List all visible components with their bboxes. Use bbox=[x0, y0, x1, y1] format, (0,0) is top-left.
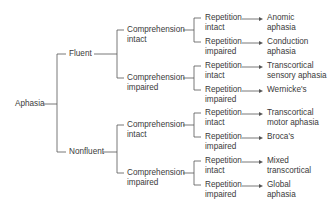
comprehension-node: Comprehension impaired bbox=[127, 73, 185, 93]
outcome-conduction: Conduction aphasia bbox=[267, 37, 308, 57]
root-node: Aphasia bbox=[15, 99, 45, 109]
fluent-node: Fluent bbox=[69, 49, 92, 59]
outcome-global: Global aphasia bbox=[267, 180, 296, 200]
repetition-node: Repetition impaired bbox=[205, 85, 242, 105]
outcome-transcortical-sensory: Transcortical sensory aphasia bbox=[267, 61, 327, 81]
repetition-node: Repetition impaired bbox=[205, 132, 242, 152]
comprehension-node: Comprehension impaired bbox=[127, 168, 185, 188]
comprehension-node: Comprehension intact bbox=[127, 25, 185, 45]
arrow-icon bbox=[259, 41, 263, 45]
arrow-icon bbox=[259, 65, 263, 69]
nonfluent-node: Nonfluent bbox=[69, 147, 104, 157]
arrow-icon bbox=[259, 184, 263, 188]
repetition-node: Repetition intact bbox=[205, 156, 242, 176]
outcome-mixed-transcortical: Mixed transcortical bbox=[267, 156, 311, 176]
arrow-icon bbox=[259, 136, 263, 140]
comprehension-node: Comprehension intact bbox=[127, 120, 185, 140]
outcome-wernickes: Wernicke's bbox=[267, 85, 307, 95]
repetition-node: Repetition intact bbox=[205, 108, 242, 128]
arrow-icon bbox=[259, 112, 263, 116]
repetition-node: Repetition intact bbox=[205, 61, 242, 81]
arrow-icon bbox=[259, 17, 263, 21]
arrow-icon bbox=[259, 160, 263, 164]
repetition-node: Repetition impaired bbox=[205, 37, 242, 57]
outcome-anomic: Anomic aphasia bbox=[267, 13, 296, 33]
outcome-transcortical-motor: Transcortical motor aphasia bbox=[267, 108, 319, 128]
arrow-icon bbox=[259, 89, 263, 93]
repetition-node: Repetition impaired bbox=[205, 180, 242, 200]
outcome-brocas: Broca's bbox=[267, 132, 294, 142]
repetition-node: Repetition intact bbox=[205, 13, 242, 33]
